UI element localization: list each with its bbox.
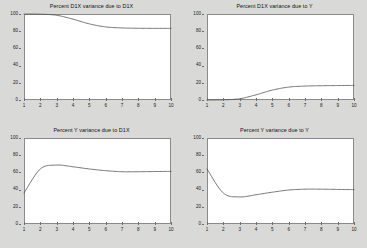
y-tick-label: 60 <box>196 46 201 51</box>
x-tick-label: 10 <box>351 227 356 232</box>
x-tick-label: 2 <box>39 227 42 232</box>
y-tick-label: 100 <box>193 12 201 17</box>
plot-curve-layer <box>24 14 171 100</box>
x-tick-mark <box>338 98 339 101</box>
x-tick-label: 3 <box>238 103 241 108</box>
x-tick-mark <box>138 222 139 225</box>
x-axis-ticks: 12345678910 <box>24 102 171 112</box>
x-tick-mark <box>289 222 290 225</box>
x-tick-mark <box>40 98 41 101</box>
x-tick-mark <box>338 222 339 225</box>
plot-curve-layer <box>207 14 354 100</box>
panel-title: Percent Y variance due to Y <box>183 127 366 134</box>
y-tick-label: 60 <box>13 46 18 51</box>
x-tick-label: 9 <box>336 227 339 232</box>
y-tick-mark <box>202 48 205 49</box>
y-tick-mark <box>19 100 22 101</box>
x-tick-label: 1 <box>206 103 209 108</box>
x-tick-label: 9 <box>153 103 156 108</box>
panel-title: Percent D1X variance due to Y <box>183 3 366 10</box>
plot-curve-layer <box>24 138 171 224</box>
y-tick-mark <box>19 66 22 67</box>
series-line <box>207 169 354 197</box>
y-axis-ticks: 100806040200 <box>183 138 204 224</box>
x-tick-mark <box>57 222 58 225</box>
x-tick-mark <box>256 222 257 225</box>
x-tick-label: 1 <box>23 103 26 108</box>
y-tick-mark <box>202 224 205 225</box>
x-tick-label: 2 <box>222 227 225 232</box>
y-tick-mark <box>19 224 22 225</box>
x-tick-mark <box>89 222 90 225</box>
y-tick-mark <box>202 172 205 173</box>
x-tick-mark <box>256 98 257 101</box>
y-tick-mark <box>19 14 22 15</box>
x-tick-mark <box>354 98 355 101</box>
x-tick-label: 7 <box>121 227 124 232</box>
y-tick-label: 100 <box>10 12 18 17</box>
x-tick-label: 10 <box>351 103 356 108</box>
y-tick-mark <box>19 138 22 139</box>
y-tick-mark <box>202 83 205 84</box>
x-tick-mark <box>240 222 241 225</box>
plot-curve-layer <box>207 138 354 224</box>
y-tick-mark <box>202 207 205 208</box>
y-tick-mark <box>19 190 22 191</box>
y-tick-label: 60 <box>13 170 18 175</box>
x-tick-label: 6 <box>287 227 290 232</box>
x-tick-mark <box>24 98 25 101</box>
x-tick-label: 4 <box>255 103 258 108</box>
panel-grid: Percent D1X variance due to D1X 10080604… <box>0 0 367 248</box>
x-tick-mark <box>207 222 208 225</box>
panel-d1x-due-to-y: Percent D1X variance due to Y 1008060402… <box>183 0 366 124</box>
y-tick-label: 80 <box>196 29 201 34</box>
y-tick-label: 40 <box>13 63 18 68</box>
x-tick-mark <box>106 222 107 225</box>
x-tick-mark <box>171 222 172 225</box>
x-tick-mark <box>223 98 224 101</box>
y-axis-ticks: 100806040200 <box>0 14 21 100</box>
y-tick-label: 80 <box>13 29 18 34</box>
series-line <box>207 85 354 100</box>
series-line <box>24 165 171 193</box>
y-tick-mark <box>19 48 22 49</box>
x-tick-label: 7 <box>304 227 307 232</box>
x-tick-label: 3 <box>238 227 241 232</box>
panel-title: Percent D1X variance due to D1X <box>0 3 183 10</box>
x-tick-mark <box>24 222 25 225</box>
y-tick-label: 40 <box>196 187 201 192</box>
y-tick-label: 80 <box>13 153 18 158</box>
x-tick-label: 7 <box>304 103 307 108</box>
y-tick-label: 100 <box>193 136 201 141</box>
y-tick-mark <box>202 190 205 191</box>
y-tick-label: 20 <box>196 205 201 210</box>
x-tick-mark <box>321 98 322 101</box>
x-tick-label: 2 <box>222 103 225 108</box>
x-tick-label: 6 <box>287 103 290 108</box>
x-tick-mark <box>305 222 306 225</box>
y-tick-label: 40 <box>13 187 18 192</box>
x-tick-label: 1 <box>206 227 209 232</box>
y-tick-label: 60 <box>196 170 201 175</box>
x-tick-label: 2 <box>39 103 42 108</box>
x-tick-label: 4 <box>255 227 258 232</box>
x-tick-label: 10 <box>168 227 173 232</box>
y-tick-mark <box>202 31 205 32</box>
x-axis-ticks: 12345678910 <box>207 226 354 236</box>
x-tick-mark <box>305 98 306 101</box>
x-tick-label: 10 <box>168 103 173 108</box>
x-tick-mark <box>155 222 156 225</box>
y-tick-mark <box>202 14 205 15</box>
series-line <box>24 14 171 28</box>
x-tick-mark <box>289 98 290 101</box>
x-tick-label: 5 <box>88 103 91 108</box>
x-tick-label: 4 <box>72 227 75 232</box>
y-tick-mark <box>19 207 22 208</box>
x-tick-label: 9 <box>336 103 339 108</box>
y-tick-mark <box>19 83 22 84</box>
x-tick-mark <box>223 222 224 225</box>
x-tick-label: 8 <box>320 103 323 108</box>
x-tick-mark <box>57 98 58 101</box>
x-tick-mark <box>272 98 273 101</box>
x-axis-ticks: 12345678910 <box>207 102 354 112</box>
